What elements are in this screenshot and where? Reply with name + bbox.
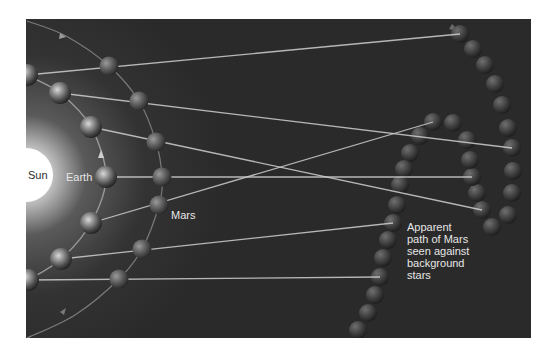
apparent-mars-position [374,249,392,267]
mars-position [100,57,119,76]
apparent-mars-position [461,151,479,169]
earth-position [17,269,39,291]
apparent-mars-position [388,196,406,214]
apparent-mars-position [503,184,521,202]
earth-position [49,82,71,104]
sun-label: Sun [28,169,48,181]
earth-position [95,166,117,188]
apparent-mars-position [476,56,494,74]
apparent-mars-position [504,162,522,180]
apparent-mars-position [499,119,517,137]
earth-position [80,212,102,234]
mars-position [133,240,152,259]
apparent-mars-position [401,144,419,162]
mars-position [147,133,166,152]
mars-position [110,270,129,289]
apparent-mars-position [366,286,384,304]
retrograde-diagram: Sun Earth Mars Apparent path of Mars see… [0,0,556,357]
apparent-mars-position [458,131,476,149]
apparent-mars-position [468,184,486,202]
apparent-mars-position [444,114,462,132]
apparent-mars-position [486,75,504,93]
mars-position [150,196,169,215]
apparent-mars-position [493,96,511,114]
apparent-mars-position [359,304,377,322]
earth-position [16,64,38,86]
apparent-mars-position [379,231,397,249]
earth-position [50,248,72,270]
mars-position [153,168,172,187]
apparent-mars-position [349,321,367,339]
apparent-path-label: Apparent path of Mars seen against backg… [407,221,469,281]
apparent-mars-position [464,40,482,58]
earth-label: Earth [66,171,92,183]
apparent-mars-position [483,218,501,236]
mars-label: Mars [171,209,195,221]
apparent-mars-position [499,206,517,224]
mars-position [130,92,149,111]
earth-position [80,116,102,138]
apparent-mars-position [395,160,413,178]
